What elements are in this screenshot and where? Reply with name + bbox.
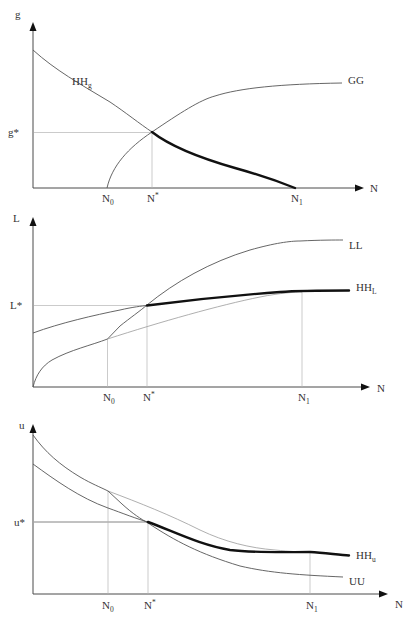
y-axis-arrow-icon — [30, 424, 37, 433]
tick-n0: N0 — [103, 391, 115, 406]
hhg-bold-segment — [152, 132, 295, 188]
x-axis-label: N — [370, 182, 378, 194]
x-axis-label: N — [395, 598, 403, 610]
panel-l: L L* LL HHL N N0 N* N1 — [10, 212, 385, 406]
three-panel-diagram: g g* HHg GG N N0 N* N1 L L* LL HHL N N0 — [0, 0, 415, 619]
tick-n0: N0 — [102, 599, 114, 614]
panel-u: u u* HHu UU N N0 N* N1 — [14, 419, 403, 614]
hhl-label: HHL — [356, 281, 377, 296]
tick-n1: N1 — [306, 599, 318, 614]
hhu-thin-connector — [108, 491, 310, 552]
equilibrium-label: u* — [14, 516, 25, 528]
y-axis-arrow-icon — [30, 22, 37, 31]
y-axis-arrow-icon — [30, 217, 37, 226]
hhg-curve — [33, 50, 152, 132]
y-axis-label: L — [13, 212, 20, 224]
hhu-label: HHu — [356, 549, 376, 564]
hhu-curve — [33, 464, 148, 522]
tick-n1: N1 — [298, 391, 310, 406]
y-axis-label: u — [19, 419, 25, 431]
gg-label: GG — [348, 74, 364, 86]
uu-label: UU — [349, 575, 365, 587]
equilibrium-label: L* — [10, 299, 22, 311]
x-axis-label: N — [377, 382, 385, 394]
equilibrium-label: g* — [8, 126, 19, 138]
panel-g: g g* HHg GG N N0 N* N1 — [8, 8, 378, 207]
x-axis-arrow-icon — [379, 591, 388, 598]
hhl-bold-segment — [147, 291, 349, 306]
uu-curve — [33, 435, 343, 577]
ll-curve — [33, 240, 343, 387]
tick-nstar: N* — [144, 598, 156, 611]
y-axis-label: g — [15, 8, 21, 20]
x-axis-arrow-icon — [361, 384, 370, 391]
tick-n1: N1 — [291, 192, 303, 207]
ll-label: LL — [349, 239, 363, 251]
hhl-curve — [33, 306, 147, 334]
tick-nstar: N* — [143, 390, 155, 403]
gg-curve — [107, 83, 342, 188]
hhu-bold-segment — [148, 522, 349, 556]
tick-n0: N0 — [102, 192, 114, 207]
tick-nstar: N* — [147, 191, 159, 204]
hhg-label: HHg — [72, 75, 92, 90]
x-axis-arrow-icon — [355, 185, 364, 192]
